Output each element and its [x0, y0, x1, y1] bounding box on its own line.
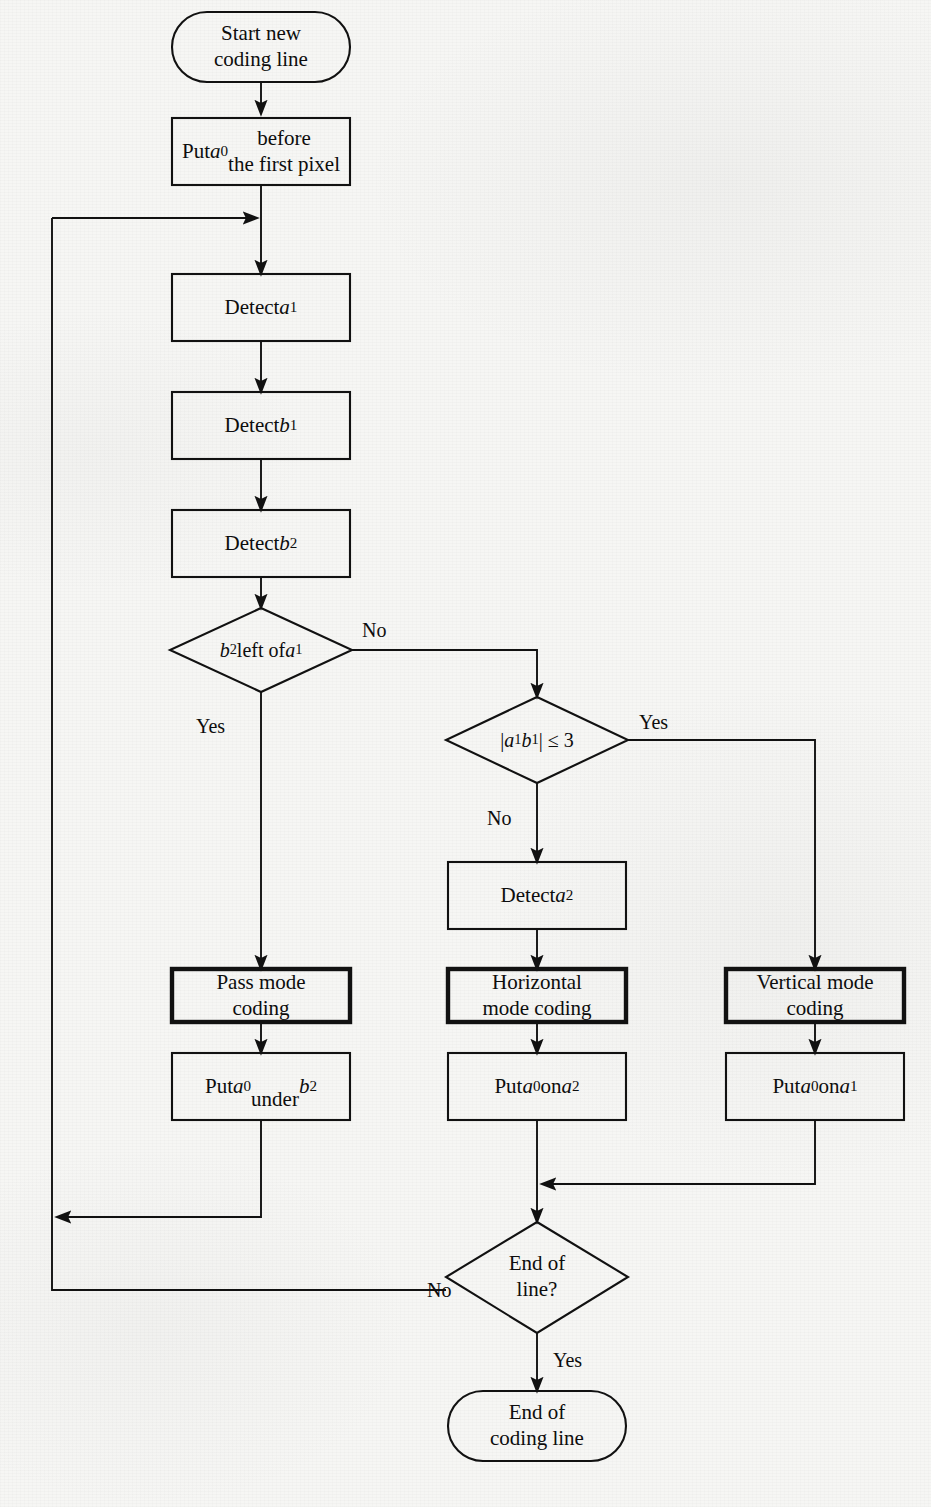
- node-put-a0-on-a1-shape: [726, 1053, 904, 1120]
- node-decision-b2-left-shape: [170, 608, 352, 692]
- flowchart-connector-layer: [0, 0, 931, 1507]
- edge-label-a1b1-yes: Yes: [639, 712, 668, 732]
- edge-put-a0-on-a1-to-centre-trunk: [542, 1120, 815, 1184]
- edge-b2-left-no-to-decision-a1b1: [352, 650, 537, 697]
- node-put-a0-on-a2-shape: [448, 1053, 626, 1120]
- node-put-a0-first-shape: [172, 118, 350, 185]
- node-detect-b2-shape: [172, 510, 350, 577]
- node-detect-a1-shape: [172, 274, 350, 341]
- edge-label-end-of-line-no: No: [427, 1280, 451, 1300]
- node-decision-end-of-line-shape: [446, 1222, 628, 1333]
- edge-end-of-line-no-to-return-bus: [52, 1217, 446, 1290]
- flowchart-page: Start newcoding line Put a0 beforethe fi…: [0, 0, 931, 1507]
- node-decision-a1b1-shape: [446, 697, 628, 783]
- node-horizontal-mode-shape: [448, 969, 626, 1022]
- node-put-a0-under-b2-shape: [172, 1053, 350, 1120]
- node-detect-b1-shape: [172, 392, 350, 459]
- node-detect-a2-shape: [448, 862, 626, 929]
- edge-label-b2-left-yes: Yes: [196, 716, 225, 736]
- node-vertical-mode-shape: [726, 969, 904, 1022]
- node-end-shape: [448, 1391, 626, 1461]
- edge-label-a1b1-no: No: [487, 808, 511, 828]
- edge-put-a0-under-b2-to-return-bus: [57, 1120, 261, 1217]
- edge-label-b2-left-no: No: [362, 620, 386, 640]
- node-pass-mode-shape: [172, 969, 350, 1022]
- edge-label-end-of-line-yes: Yes: [553, 1350, 582, 1370]
- node-start-shape: [172, 12, 350, 82]
- edge-a1b1-yes-to-vertical-mode: [628, 740, 815, 969]
